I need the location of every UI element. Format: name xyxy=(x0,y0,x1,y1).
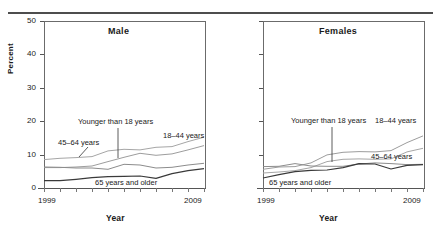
x-tickmark-2002 xyxy=(311,188,312,192)
younger-than-18-label-f: Younger than 18 years xyxy=(291,116,366,125)
series-line-45-64-years xyxy=(263,163,423,167)
x-tickmark-2001 xyxy=(76,188,77,192)
x-tickmark-2004 xyxy=(124,188,125,192)
x-tickmark-2003 xyxy=(108,188,109,192)
x-tickmark-2005 xyxy=(359,188,360,192)
x-tick-label-2009-f: 2009 xyxy=(403,196,421,205)
chart-root: Percent 50 40 30 20 10 0 Male Younger th… xyxy=(0,0,441,237)
male-x-axis-title: Year xyxy=(106,213,125,223)
x-tickmark-2007 xyxy=(172,188,173,192)
18-44-label: 18–44 years xyxy=(163,131,204,140)
x-tickmark-2003 xyxy=(327,188,328,192)
65-and-older-label: 65 years and older xyxy=(95,178,157,187)
x-tickmark-1999 xyxy=(263,188,264,192)
male-panel-title: Male xyxy=(108,26,129,36)
x-tickmark-2009 xyxy=(204,188,205,192)
females-panel: Females Younger than 18 years 18–44 year… xyxy=(219,0,441,237)
females-x-axis-title: Year xyxy=(319,213,338,223)
45-64-label-f: 45–64 years xyxy=(371,152,412,161)
series-line-18-44-years xyxy=(44,163,204,169)
45-64-leader xyxy=(79,147,88,157)
x-tick-label-1999: 1999 xyxy=(38,196,56,205)
x-tickmark-2009 xyxy=(423,188,424,192)
x-tickmark-1999 xyxy=(44,188,45,192)
x-tick-label-1999-f: 1999 xyxy=(257,196,275,205)
females-panel-title: Females xyxy=(319,26,357,36)
x-tickmark-2002 xyxy=(92,188,93,192)
x-tickmark-2004 xyxy=(343,188,344,192)
x-tickmark-2000 xyxy=(60,188,61,192)
45-64-label: 45–64 years xyxy=(58,138,99,147)
x-tickmark-2001 xyxy=(295,188,296,192)
x-tickmark-2007 xyxy=(391,188,392,192)
x-tickmark-2006 xyxy=(375,188,376,192)
65-and-older-label-f: 65 years and older xyxy=(269,178,331,187)
x-tickmark-2008 xyxy=(407,188,408,192)
x-tickmark-2000 xyxy=(279,188,280,192)
younger-than-18-label: Younger than 18 years xyxy=(78,117,153,126)
x-tick-label-2009: 2009 xyxy=(184,196,202,205)
x-tickmark-2006 xyxy=(156,188,157,192)
male-panel: Percent 50 40 30 20 10 0 Male Younger th… xyxy=(0,0,222,237)
x-tickmark-2008 xyxy=(188,188,189,192)
18-44-label-f: 18–44 years xyxy=(375,116,416,125)
x-tickmark-2005 xyxy=(140,188,141,192)
